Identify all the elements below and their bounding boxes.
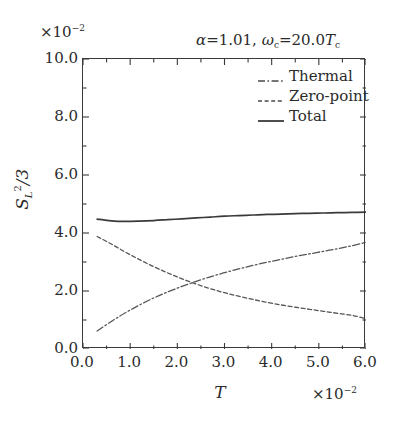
x-tick-label: 3.0: [201, 355, 247, 370]
y-axis-title: SL2/3: [12, 159, 34, 219]
legend-label: Zero-point: [289, 89, 369, 104]
x-tick-label: 5.0: [295, 355, 341, 370]
x-tick-label: 0.0: [59, 355, 105, 370]
omega-subscript: c: [274, 40, 279, 50]
x-axis-multiplier-exponent: −2: [344, 385, 357, 395]
legend: ThermalZero-pointTotal: [258, 66, 368, 126]
y-tick-label: 8.0: [36, 109, 78, 124]
x-tick-label: 6.0: [342, 355, 388, 370]
series-line-thermal: [97, 242, 366, 331]
y-tick-label: 6.0: [36, 167, 78, 182]
omega-value: =20.0: [279, 31, 325, 49]
legend-item-zero-point[interactable]: Zero-point: [258, 86, 368, 106]
y-tick-label: 10.0: [36, 51, 78, 66]
y-tick-label: 4.0: [36, 225, 78, 240]
alpha-symbol: α: [196, 31, 206, 49]
tc-symbol: T: [325, 31, 335, 49]
x-tick-label: 1.0: [106, 355, 152, 370]
y-axis-title-tail: /3: [12, 169, 32, 186]
legend-label: Total: [289, 109, 327, 124]
series-line-total: [97, 212, 366, 221]
x-tick-label: 4.0: [248, 355, 294, 370]
omega-symbol: ω: [262, 31, 274, 49]
y-axis-title-superscript: 2: [12, 185, 23, 191]
figure-root: ×10−2 ×10−2 α=1.01, ωc=20.0Tc SL2/3 T 0.…: [0, 0, 420, 424]
parameter-annotation: α=1.01, ωc=20.0Tc: [196, 31, 340, 49]
legend-swatch-dashdot-icon: [258, 71, 284, 81]
legend-swatch-dashed-icon: [258, 91, 284, 101]
y-tick-label: 2.0: [36, 283, 78, 298]
x-axis-multiplier: ×10−2: [312, 385, 357, 403]
x-axis-title: T: [200, 382, 240, 402]
legend-item-total[interactable]: Total: [258, 106, 368, 126]
y-axis-title-main: S: [12, 198, 32, 210]
alpha-value: =1.01,: [206, 31, 257, 49]
legend-swatch-solid-icon: [258, 111, 284, 121]
x-tick-label: 2.0: [153, 355, 199, 370]
x-axis-multiplier-base: ×10: [312, 385, 344, 403]
legend-item-thermal[interactable]: Thermal: [258, 66, 368, 86]
tc-subscript: c: [335, 40, 340, 50]
legend-label: Thermal: [289, 69, 353, 84]
